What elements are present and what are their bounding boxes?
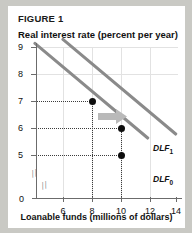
- x-tick: 8: [92, 197, 93, 202]
- x-axis-break-icon: //: [39, 178, 49, 191]
- data-point-a: [89, 98, 96, 105]
- curve-label-dlf1: DLF1: [153, 143, 173, 155]
- x-axis-title: Loanable funds (millions of dollars): [8, 212, 185, 222]
- y-tick-label: 9: [18, 42, 23, 52]
- x-tick: 12: [150, 197, 151, 202]
- data-point-b: [118, 125, 125, 132]
- dropline-point-a-horizontal: [36, 101, 92, 102]
- y-tick: 8: [31, 74, 37, 75]
- y-tick: 6: [31, 128, 37, 129]
- y-axis-title: Real interest rate (percent per year): [18, 29, 178, 40]
- y-tick-label: 6: [18, 123, 23, 133]
- dropline-point-b-vertical: [121, 128, 122, 199]
- plot-area: DLF1 DLF0 9 8 7 6 5 0 // // 6: [36, 47, 178, 199]
- curve-label-dlf1-text: DLF: [153, 143, 170, 153]
- curve-label-dlf1-subscript: 1: [170, 148, 174, 155]
- dropline-point-a-vertical: [92, 101, 93, 199]
- y-tick: 5: [31, 155, 37, 156]
- figure-label: FIGURE 1: [18, 13, 63, 24]
- dropline-point-b-horizontal: [36, 128, 121, 129]
- y-tick-label: 7: [18, 96, 23, 106]
- x-tick: 10: [121, 197, 122, 202]
- x-tick: 14: [176, 197, 177, 202]
- x-axis-line: [32, 198, 182, 199]
- figure-card: FIGURE 1 Real interest rate (percent per…: [8, 6, 185, 228]
- origin-label: 0: [19, 194, 24, 204]
- curve-label-dlf0-subscript: 0: [170, 179, 174, 186]
- x-tick: 6: [63, 197, 64, 202]
- y-tick-label: 5: [18, 150, 23, 160]
- gridline-horizontal: [36, 47, 178, 48]
- shift-arrow-icon: [98, 109, 128, 124]
- curve-label-dlf0: DLF0: [153, 174, 173, 186]
- y-tick-label: 8: [18, 69, 23, 79]
- y-axis-break-icon: //: [29, 166, 39, 179]
- data-point-c: [118, 152, 125, 159]
- y-tick: 7: [31, 101, 37, 102]
- gridline-vertical: [150, 47, 151, 199]
- dropline-point-c-horizontal: [36, 155, 121, 156]
- curve-label-dlf0-text: DLF: [153, 174, 170, 184]
- y-tick: 9: [31, 47, 37, 48]
